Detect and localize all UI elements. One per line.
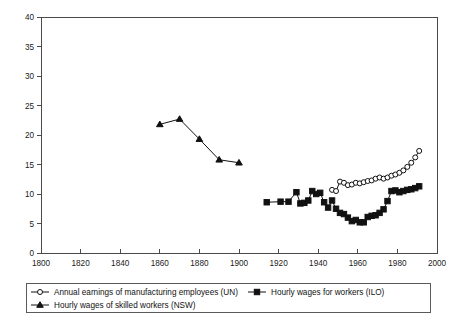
x-tick-label: 1840 bbox=[111, 259, 130, 268]
x-tick-label: 1900 bbox=[230, 259, 249, 268]
data-point-marker bbox=[38, 290, 43, 295]
legend-label: Hourly wages for workers (ILO) bbox=[271, 288, 385, 297]
legend-item[interactable]: Annual earnings of manufacturing employe… bbox=[31, 288, 238, 297]
x-tick-label: 1880 bbox=[190, 259, 209, 268]
y-tick-label: 30 bbox=[25, 72, 35, 81]
data-point-marker bbox=[416, 184, 421, 189]
x-tick-label: 1920 bbox=[269, 259, 288, 268]
data-point-marker bbox=[294, 190, 299, 195]
legend-label: Annual earnings of manufacturing employe… bbox=[54, 288, 238, 297]
data-point-marker bbox=[286, 199, 291, 204]
x-tick-label: 1800 bbox=[32, 259, 51, 268]
data-point-marker bbox=[417, 148, 422, 153]
y-tick-label: 20 bbox=[25, 131, 35, 140]
x-tick-label: 1960 bbox=[349, 259, 368, 268]
data-point-marker bbox=[409, 160, 414, 165]
x-tick-label: 1980 bbox=[388, 259, 407, 268]
x-tick-label: 2000 bbox=[428, 259, 447, 268]
data-point-marker bbox=[321, 200, 326, 205]
data-point-marker bbox=[306, 198, 311, 203]
data-point-marker bbox=[361, 220, 366, 225]
y-tick-label: 25 bbox=[25, 102, 35, 111]
x-tick-label: 1820 bbox=[71, 259, 90, 268]
y-tick-label: 10 bbox=[25, 190, 35, 199]
data-point-marker bbox=[329, 198, 334, 203]
data-point-marker bbox=[381, 207, 386, 212]
data-point-marker bbox=[413, 155, 418, 160]
chart-container: 0510152025303540 18001820184018601880190… bbox=[0, 0, 455, 327]
legend-item[interactable]: Hourly wages of skilled workers (NSW) bbox=[31, 301, 196, 310]
data-point-marker bbox=[325, 205, 330, 210]
y-tick-label: 15 bbox=[25, 161, 35, 170]
y-tick-label: 35 bbox=[25, 43, 35, 52]
data-point-marker bbox=[317, 190, 322, 195]
data-point-marker bbox=[334, 189, 339, 194]
data-point-marker bbox=[385, 198, 390, 203]
y-tick-label: 0 bbox=[29, 249, 34, 258]
y-tick-label: 40 bbox=[25, 13, 35, 22]
data-point-marker bbox=[278, 199, 283, 204]
chart-legend: Annual earnings of manufacturing employe… bbox=[26, 283, 430, 312]
data-point-marker bbox=[254, 289, 259, 294]
y-tick-label: 5 bbox=[29, 220, 34, 229]
x-tick-label: 1860 bbox=[151, 259, 170, 268]
chart-background bbox=[0, 0, 455, 327]
data-point-marker bbox=[405, 164, 410, 169]
line-chart: 0510152025303540 18001820184018601880190… bbox=[0, 0, 455, 327]
data-point-marker bbox=[264, 200, 269, 205]
x-tick-label: 1940 bbox=[309, 259, 328, 268]
legend-label: Hourly wages of skilled workers (NSW) bbox=[54, 301, 196, 310]
